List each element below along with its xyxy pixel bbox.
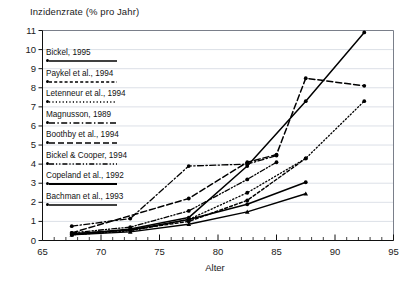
data-point-marker [128, 217, 132, 221]
y-tick-marks [39, 31, 43, 241]
legend-line-sample [49, 120, 121, 126]
legend-item-swatch [46, 120, 120, 126]
legend-item[interactable]: Paykel et al., 1994 [46, 69, 196, 85]
data-point-marker [304, 99, 308, 103]
data-point-marker [187, 218, 191, 222]
legend-item-swatch [46, 99, 120, 105]
legend-item-label: Letenneur et al., 1994 [46, 89, 196, 98]
data-point-marker [245, 202, 249, 206]
legend-item-swatch [46, 79, 120, 85]
legend-item-label: Bickel, 1995 [46, 48, 196, 57]
legend-item-label: Paykel et al., 1994 [46, 69, 196, 78]
legend-item-swatch [46, 161, 120, 167]
data-point-marker [187, 209, 191, 213]
data-point-marker [304, 76, 308, 80]
legend-item-swatch [46, 181, 120, 187]
data-point-marker [362, 84, 366, 88]
legend-item-label: Magnusson, 1989 [46, 110, 196, 119]
data-point-marker [245, 160, 249, 164]
legend-item-swatch [46, 140, 120, 146]
legend-line-sample [49, 181, 121, 187]
legend-item[interactable]: Magnusson, 1989 [46, 110, 196, 126]
legend-item-label: Bickel & Cooper, 1994 [46, 151, 196, 160]
data-point-marker [275, 153, 279, 157]
data-point-marker [304, 180, 308, 184]
legend-item-swatch [46, 202, 120, 208]
data-point-marker [70, 224, 74, 228]
legend-line-sample [49, 161, 121, 167]
data-point-marker [304, 157, 308, 161]
legend-item[interactable]: Boothby et al., 1994 [46, 130, 196, 146]
legend-item[interactable]: Bickel, 1995 [46, 48, 196, 64]
legend-item-swatch [46, 58, 120, 64]
data-point-marker [362, 99, 366, 103]
data-point-marker [362, 31, 366, 35]
legend-line-sample [49, 99, 121, 105]
legend-line-sample [49, 140, 121, 146]
data-point-marker [245, 191, 249, 195]
data-series [70, 180, 308, 235]
data-point-marker [245, 199, 249, 203]
legend-item[interactable]: Letenneur et al., 1994 [46, 89, 196, 105]
legend-item[interactable]: Bachman et al., 1993 [46, 192, 196, 208]
legend-item[interactable]: Bickel & Cooper, 1994 [46, 151, 196, 167]
legend-item-label: Copeland et al., 1992 [46, 171, 196, 180]
data-point-marker [275, 160, 279, 164]
incidence-rate-line-chart: Inzidenzrate (% pro Jahr) 11109876543210… [0, 0, 416, 284]
legend-line-sample [49, 58, 121, 64]
legend-line-sample [49, 79, 121, 85]
legend-item-label: Bachman et al., 1993 [46, 192, 196, 201]
legend-item-label: Boothby et al., 1994 [46, 130, 196, 139]
legend-item[interactable]: Copeland et al., 1992 [46, 171, 196, 187]
data-point-marker [245, 178, 249, 182]
legend-line-sample [49, 202, 121, 208]
x-tick-marks [43, 235, 394, 241]
